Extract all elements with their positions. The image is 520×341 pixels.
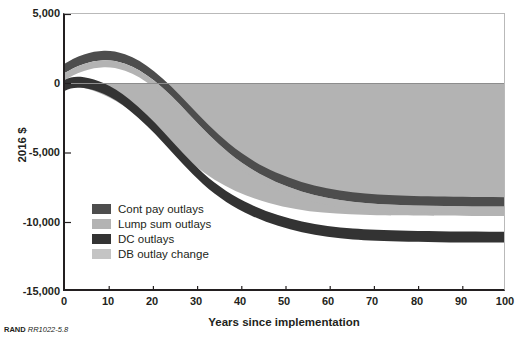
figure-container: 5,000 0 -5,000 -10,000 -15,000 2016 $	[0, 0, 520, 341]
y-tick-label: 5,000	[2, 8, 60, 19]
legend-item[interactable]: Lump sum outlays	[92, 216, 211, 231]
x-tick-label: 50	[278, 296, 290, 307]
x-tick-label: 40	[234, 296, 246, 307]
legend-item-label: Cont pay outlays	[118, 203, 204, 215]
x-tick-label: 80	[411, 296, 423, 307]
x-tick-label: 30	[190, 296, 202, 307]
x-tick-label: 70	[366, 296, 378, 307]
legend-swatch-icon	[92, 249, 111, 259]
plot-area: Cont pay outlays Lump sum outlays DC out…	[63, 13, 505, 291]
legend-swatch-icon	[92, 204, 111, 214]
y-tick-label: -5,000	[2, 147, 60, 158]
y-tick-label: 0	[2, 78, 60, 89]
legend-item[interactable]: Cont pay outlays	[92, 201, 211, 216]
source-brand: RAND	[4, 325, 26, 334]
x-tick-label: 20	[146, 296, 158, 307]
legend-item-label: DB outlay change	[118, 248, 209, 260]
x-tick-label: 90	[455, 296, 467, 307]
chart-legend: Cont pay outlays Lump sum outlays DC out…	[92, 201, 211, 261]
x-tick-label: 0	[61, 296, 67, 307]
legend-item-label: Lump sum outlays	[118, 218, 211, 230]
legend-item-label: DC outlays	[118, 233, 174, 245]
y-axis-tick-marks	[65, 15, 71, 223]
legend-swatch-icon	[92, 219, 111, 229]
x-axis-title: Years since implementation	[63, 316, 505, 328]
x-axis-tick-marks	[109, 286, 463, 291]
y-tick-label: -10,000	[2, 217, 60, 228]
y-axis-tick-labels: 5,000 0 -5,000 -10,000 -15,000	[0, 0, 60, 341]
source-note: RAND RR1022-5.8	[4, 325, 68, 334]
x-tick-label: 60	[322, 296, 334, 307]
legend-item[interactable]: DB outlay change	[92, 246, 211, 261]
x-tick-label: 10	[102, 296, 114, 307]
y-tick-label: -15,000	[2, 286, 60, 297]
source-identifier: RR1022-5.8	[28, 325, 68, 334]
legend-swatch-icon	[92, 234, 111, 244]
x-tick-label: 100	[496, 296, 514, 307]
legend-item[interactable]: DC outlays	[92, 231, 211, 246]
y-axis-title: 2016 $	[16, 105, 28, 185]
